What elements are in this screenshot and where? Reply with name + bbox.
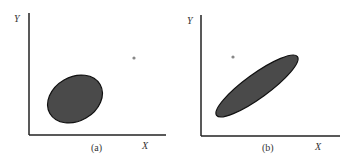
y-axis-label: Y [14,13,21,24]
distribution-ellipse [39,65,111,132]
x-axis-label: X [141,140,149,151]
panel-caption: (a) [91,142,102,154]
y-axis-label: Y [187,15,194,26]
panel-a: Y X (a) [14,13,166,154]
outlier-point [132,56,135,59]
outlier-point [231,55,234,58]
panel-caption: (b) [262,142,274,154]
figure: Y X (a) Y X (b) [0,0,350,160]
x-axis-label: X [314,141,322,152]
panel-b: Y X (b) [187,15,340,154]
distribution-ellipse [209,47,304,125]
